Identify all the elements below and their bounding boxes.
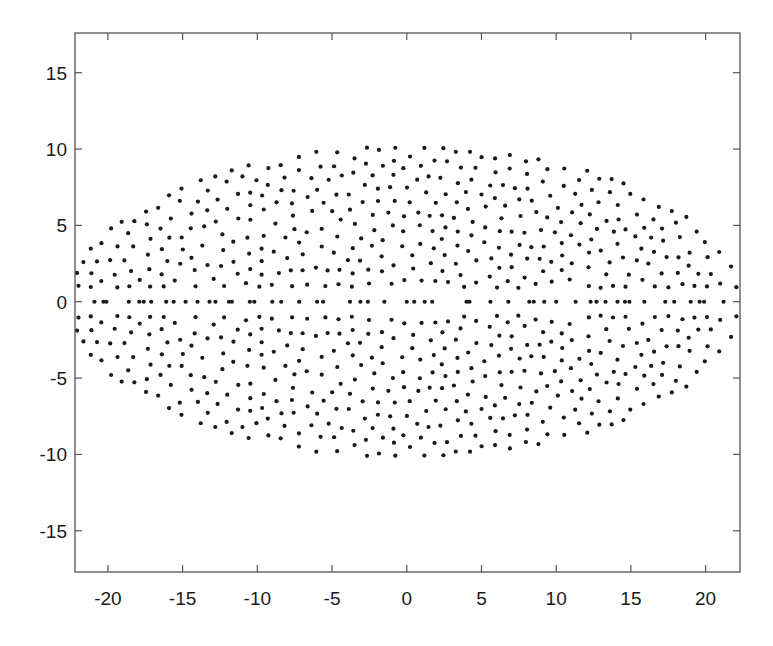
data-point	[131, 355, 135, 359]
data-point	[419, 278, 423, 282]
data-point	[248, 218, 252, 222]
data-point	[415, 422, 419, 426]
data-point	[429, 261, 433, 265]
data-point	[635, 213, 639, 217]
data-point	[432, 441, 436, 445]
data-point	[412, 300, 416, 304]
data-point	[364, 162, 368, 166]
data-point	[260, 193, 264, 197]
data-point	[137, 300, 141, 304]
data-point	[214, 380, 218, 384]
data-point	[332, 349, 336, 353]
data-point	[443, 346, 447, 350]
data-point	[169, 383, 173, 387]
x-tick-label: 15	[620, 588, 641, 609]
data-point	[462, 285, 466, 289]
data-point	[426, 425, 430, 429]
data-point	[231, 340, 235, 344]
data-point	[189, 226, 193, 230]
data-point	[401, 433, 405, 437]
data-point	[615, 300, 619, 304]
data-point	[441, 453, 445, 457]
data-point	[377, 451, 381, 455]
data-point	[493, 403, 497, 407]
data-point	[162, 284, 166, 288]
data-point	[497, 266, 501, 270]
data-point	[588, 387, 592, 391]
data-point	[440, 362, 444, 366]
data-point	[219, 264, 223, 268]
data-point	[570, 338, 574, 342]
data-point	[419, 164, 423, 168]
data-point	[518, 356, 522, 360]
data-point	[510, 265, 514, 269]
data-point	[579, 221, 583, 225]
data-point	[649, 364, 653, 368]
data-point	[661, 239, 665, 243]
data-point	[444, 407, 448, 411]
data-point	[330, 209, 334, 213]
data-point	[422, 146, 426, 150]
data-point	[445, 440, 449, 444]
data-point	[95, 340, 99, 344]
data-point	[323, 315, 327, 319]
data-point	[279, 163, 283, 167]
data-point	[479, 155, 483, 159]
data-point	[160, 247, 164, 251]
data-point	[380, 330, 384, 334]
data-point	[305, 317, 309, 321]
data-point	[148, 284, 152, 288]
data-point	[517, 197, 521, 201]
data-point	[455, 200, 459, 204]
data-point	[145, 222, 149, 226]
data-point	[322, 201, 326, 205]
data-point	[426, 174, 430, 178]
data-point	[180, 364, 184, 368]
data-point	[482, 240, 486, 244]
data-point	[423, 300, 427, 304]
data-point	[498, 370, 502, 374]
data-point	[314, 334, 318, 338]
data-point	[556, 206, 560, 210]
data-point	[660, 226, 664, 230]
data-point	[489, 343, 493, 347]
data-point	[590, 411, 594, 415]
data-point	[206, 189, 210, 193]
data-point	[358, 341, 362, 345]
data-point	[213, 174, 217, 178]
data-point	[389, 282, 393, 286]
data-point	[336, 317, 340, 321]
data-point	[160, 327, 164, 331]
data-point	[536, 157, 540, 161]
data-point	[173, 321, 177, 325]
data-point	[89, 285, 93, 289]
data-point	[705, 315, 709, 319]
data-point	[392, 159, 396, 163]
data-point	[402, 385, 406, 389]
data-point	[376, 413, 380, 417]
data-point	[189, 256, 193, 260]
data-point	[438, 176, 442, 180]
data-point	[508, 446, 512, 450]
data-point	[314, 150, 318, 154]
data-point	[479, 192, 483, 196]
data-point	[651, 217, 655, 221]
data-point	[244, 318, 248, 322]
data-point	[560, 331, 564, 335]
data-point	[322, 399, 326, 403]
data-point	[488, 416, 492, 420]
data-point	[146, 253, 150, 257]
data-point	[428, 214, 432, 218]
data-point	[205, 208, 209, 212]
data-point	[262, 392, 266, 396]
data-point	[332, 435, 336, 439]
data-point	[721, 300, 725, 304]
data-point	[532, 300, 536, 304]
data-point	[120, 380, 124, 384]
data-point	[550, 320, 554, 324]
data-point	[297, 359, 301, 363]
data-point	[326, 331, 330, 335]
data-point	[388, 185, 392, 189]
data-point	[548, 406, 552, 410]
data-point	[587, 284, 591, 288]
